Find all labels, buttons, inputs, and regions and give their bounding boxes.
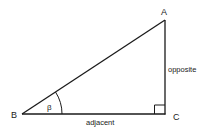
right-triangle-diagram: A B C β opposite adjacent xyxy=(0,0,208,137)
angle-arc xyxy=(56,92,63,114)
hypotenuse-line xyxy=(22,20,165,114)
vertex-label-a: A xyxy=(161,7,167,17)
vertex-label-c: C xyxy=(173,112,180,122)
angle-label-beta: β xyxy=(47,103,52,112)
vertex-label-b: B xyxy=(11,110,17,120)
side-label-opposite: opposite xyxy=(168,65,196,74)
side-label-adjacent: adjacent xyxy=(86,118,115,127)
right-angle-marker xyxy=(155,105,166,114)
